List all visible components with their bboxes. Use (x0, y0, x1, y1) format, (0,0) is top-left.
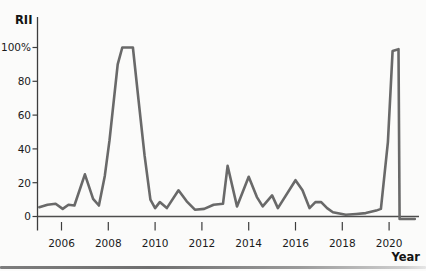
chart-ticks: 020406080100%200620082010201220142016201… (1, 41, 402, 249)
rii-line-chart: 020406080100%200620082010201220142016201… (0, 0, 426, 271)
x-tick-label: 2012 (189, 237, 216, 249)
chart-series (39, 48, 415, 220)
y-tick-label: 40 (18, 143, 31, 155)
x-tick-label: 2016 (282, 237, 309, 249)
x-tick-label: 2010 (142, 237, 169, 249)
data-line-rii (39, 48, 415, 220)
x-tick-label: 2020 (376, 237, 403, 249)
y-axis-title: RII (15, 13, 32, 27)
y-tick-label: 60 (18, 109, 31, 121)
chart-axes (38, 17, 420, 231)
y-tick-label: 100% (1, 41, 31, 53)
y-tick-label: 0 (24, 210, 31, 222)
x-tick-label: 2018 (329, 237, 356, 249)
scanned-figure-page: 020406080100%200620082010201220142016201… (0, 0, 426, 271)
page-edge-rule (0, 266, 426, 269)
x-tick-label: 2008 (95, 237, 122, 249)
x-tick-label: 2014 (235, 237, 262, 249)
y-tick-label: 80 (18, 75, 31, 87)
x-axis-title: Year (391, 250, 420, 264)
x-tick-label: 2006 (48, 237, 75, 249)
y-tick-label: 20 (18, 177, 31, 189)
